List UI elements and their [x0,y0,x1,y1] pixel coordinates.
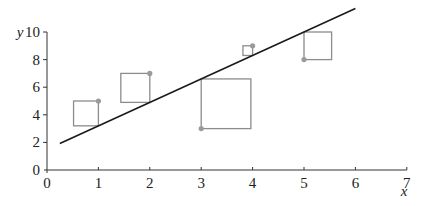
y-tick-label: 6 [33,79,41,95]
x-tick-label: 2 [146,175,154,191]
y-tick-label: 0 [33,162,41,178]
residual-square [74,101,99,126]
x-axis-label: x [400,183,408,199]
data-point [301,57,306,62]
residual-squares [74,32,332,129]
axes: 012345670246810 [25,24,411,191]
residual-square [201,79,251,129]
y-axis-label: y [15,24,24,40]
y-tick-label: 10 [25,24,40,40]
x-tick-label: 5 [300,175,308,191]
x-tick-label: 4 [249,175,257,191]
regression-residual-squares-chart: 012345670246810 x y [0,0,427,206]
residual-square [121,73,150,102]
data-point [96,98,101,103]
x-tick-label: 3 [197,175,205,191]
x-tick-label: 6 [352,175,360,191]
y-tick-label: 2 [33,134,41,150]
regression-line [60,9,356,144]
y-tick-label: 4 [33,107,41,123]
data-point [147,71,152,76]
fit-line [60,9,356,144]
data-point [199,126,204,131]
data-point [250,43,255,48]
y-tick-label: 8 [33,52,41,68]
x-tick-label: 0 [43,175,51,191]
residual-square [304,32,332,60]
x-tick-label: 1 [95,175,103,191]
